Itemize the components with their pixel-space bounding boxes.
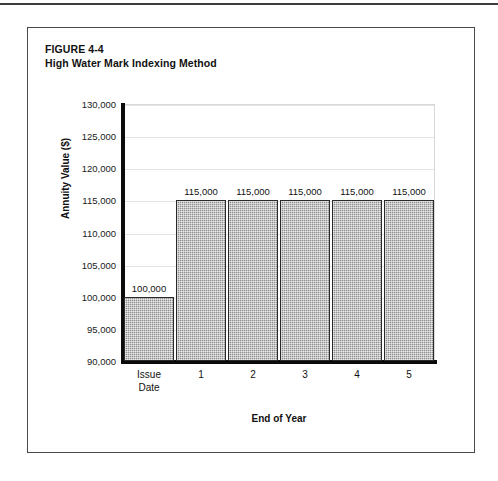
x-tick-label-line: Date <box>123 381 175 394</box>
x-tick-label: IssueDate <box>123 368 175 394</box>
y-tick-label: 95,000 <box>54 323 116 334</box>
bar[interactable] <box>332 200 382 361</box>
bar[interactable] <box>280 200 330 361</box>
x-tick-label: 3 <box>279 368 331 381</box>
bar[interactable] <box>228 200 278 361</box>
bar[interactable] <box>176 200 226 361</box>
x-tick-label: 2 <box>227 368 279 381</box>
x-tick-label-line: 2 <box>227 368 279 381</box>
bar-slot: 115,000 <box>332 104 382 361</box>
y-tick-label: 100,000 <box>54 291 116 302</box>
x-axis-tick-labels: IssueDate12345 <box>123 368 435 408</box>
bar-slot: 115,000 <box>228 104 278 361</box>
bar-slot: 115,000 <box>280 104 330 361</box>
y-tick-label: 110,000 <box>54 227 116 238</box>
x-tick-label-line: 5 <box>383 368 435 381</box>
x-tick-label-line: 1 <box>175 368 227 381</box>
y-tick-label: 90,000 <box>54 356 116 367</box>
x-tick-label: 1 <box>175 368 227 381</box>
y-tick-label: 115,000 <box>54 195 116 206</box>
page-top-rule <box>0 3 498 5</box>
bar-slot: 115,000 <box>176 104 226 361</box>
y-axis-tick-labels: 130,000125,000120,000115,000110,000105,0… <box>48 104 116 361</box>
bar-slot: 115,000 <box>384 104 434 361</box>
bar-series: 100,000115,000115,000115,000115,000115,0… <box>123 104 435 361</box>
x-tick-label-line: 4 <box>331 368 383 381</box>
bar[interactable] <box>384 200 434 361</box>
x-tick-label: 4 <box>331 368 383 381</box>
y-tick-label: 120,000 <box>54 163 116 174</box>
bar-value-label: 115,000 <box>370 186 448 197</box>
x-tick-label-line: Issue <box>123 368 175 381</box>
y-tick-label: 125,000 <box>54 131 116 142</box>
x-tick-label: 5 <box>383 368 435 381</box>
x-axis-title: End of Year <box>123 413 435 424</box>
bar-slot: 100,000 <box>124 104 174 361</box>
bar-chart: Annuity Value ($) 130,000125,000120,0001… <box>28 28 476 454</box>
y-tick-label: 105,000 <box>54 259 116 270</box>
y-tick-label: 130,000 <box>54 99 116 110</box>
x-tick-label-line: 3 <box>279 368 331 381</box>
bar[interactable] <box>124 297 174 361</box>
figure-container: FIGURE 4-4 High Water Mark Indexing Meth… <box>27 27 475 453</box>
